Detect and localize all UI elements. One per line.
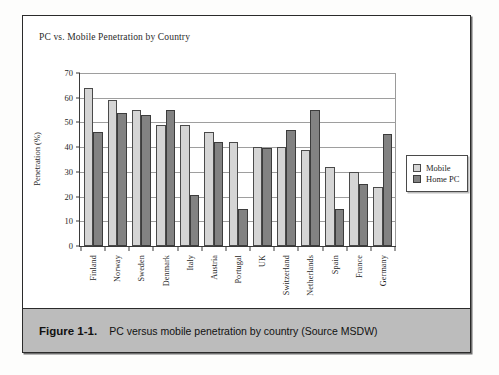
figure-caption: Figure 1-1. PC versus mobile penetration… — [23, 325, 378, 337]
bar-group: Switzerland — [274, 73, 298, 246]
bar-mobile — [253, 147, 263, 246]
legend-swatch-home-pc — [413, 175, 421, 183]
y-tick-label: 60 — [65, 93, 74, 103]
legend-item: Home PC — [413, 174, 459, 184]
bar-home-pc — [141, 115, 151, 246]
bar-mobile — [180, 125, 190, 246]
figure-frame: PC vs. Mobile Penetration by Country Pen… — [22, 15, 471, 353]
bar-home-pc — [335, 209, 345, 246]
bar-mobile — [229, 142, 239, 246]
bar-home-pc — [310, 110, 320, 246]
bar-home-pc — [238, 209, 248, 246]
figure-caption-bar: Figure 1-1. PC versus mobile penetration… — [23, 308, 470, 352]
bar-group: UK — [250, 73, 274, 246]
x-tick-mark — [81, 246, 82, 251]
bar-group: Finland — [81, 73, 105, 246]
bar-home-pc — [117, 113, 127, 246]
x-tick-label: Finland — [89, 255, 98, 281]
chart-area: PC vs. Mobile Penetration by Country Pen… — [23, 16, 470, 308]
bar-group: Sweden — [129, 73, 153, 246]
bar-group: Norway — [105, 73, 129, 246]
bar-mobile — [373, 187, 383, 246]
y-tick-label: 0 — [69, 241, 73, 251]
x-tick-mark — [129, 246, 130, 251]
x-tick-mark — [322, 246, 323, 251]
legend-item: Mobile — [413, 163, 459, 173]
bar-group: Germany — [371, 73, 395, 246]
bar-group: Italy — [178, 73, 202, 246]
chart-title: PC vs. Mobile Penetration by Country — [39, 32, 190, 42]
plot-area: 010203040506070 FinlandNorwaySwedenDenma… — [79, 73, 396, 247]
bar-group: Portugal — [226, 73, 250, 246]
x-tick-label: Spain — [330, 255, 339, 274]
y-tick-label: 10 — [65, 216, 74, 226]
x-tick-label: Switzerland — [282, 255, 291, 295]
x-tick-label: Sweden — [137, 255, 146, 282]
y-tick-label: 70 — [65, 68, 74, 78]
bar-mobile — [277, 147, 287, 246]
figure-caption-text: PC versus mobile penetration by country … — [109, 325, 377, 337]
legend-label: Home PC — [426, 174, 459, 184]
x-tick-mark — [298, 246, 299, 251]
x-tick-label: Netherlands — [306, 255, 315, 296]
y-tick-label: 50 — [65, 117, 74, 127]
x-tick-label: Portugal — [234, 255, 243, 284]
bar-home-pc — [214, 142, 224, 246]
x-tick-mark — [201, 246, 202, 251]
x-tick-label: Italy — [185, 255, 194, 271]
chart-legend: MobileHome PC — [406, 155, 468, 192]
bar-home-pc — [383, 134, 393, 246]
bar-group: Austria — [202, 73, 226, 246]
x-tick-mark — [177, 246, 178, 251]
bar-mobile — [156, 125, 166, 246]
bar-group: Denmark — [153, 73, 177, 246]
document-page: PC vs. Mobile Penetration by Country Pen… — [0, 0, 499, 375]
x-tick-mark — [395, 246, 396, 251]
bar-mobile — [204, 132, 214, 246]
x-tick-label: Germany — [378, 255, 387, 286]
y-axis-label: Penetration (%) — [32, 132, 42, 186]
x-tick-mark — [153, 246, 154, 251]
x-tick-label: Norway — [113, 255, 122, 282]
bar-home-pc — [286, 130, 296, 246]
x-tick-mark — [370, 246, 371, 251]
bar-home-pc — [166, 110, 176, 246]
bar-home-pc — [93, 132, 103, 246]
bar-group: Netherlands — [298, 73, 322, 246]
figure-caption-number: Figure 1-1. — [39, 325, 97, 337]
bar-mobile — [349, 172, 359, 246]
y-tick-label: 40 — [65, 142, 74, 152]
bar-home-pc — [262, 148, 272, 246]
bar-mobile — [325, 167, 335, 246]
bar-series-container: FinlandNorwaySwedenDenmarkItalyAustriaPo… — [80, 73, 396, 246]
x-tick-label: France — [354, 255, 363, 278]
x-tick-label: UK — [258, 255, 267, 267]
bar-mobile — [301, 150, 311, 246]
bar-home-pc — [359, 184, 369, 246]
x-tick-mark — [346, 246, 347, 251]
bar-home-pc — [190, 195, 200, 246]
legend-swatch-mobile — [413, 164, 421, 172]
x-tick-mark — [274, 246, 275, 251]
x-tick-mark — [105, 246, 106, 251]
x-tick-label: Denmark — [161, 255, 170, 286]
bar-group: France — [347, 73, 371, 246]
x-tick-mark — [250, 246, 251, 251]
x-tick-mark — [225, 246, 226, 251]
bar-mobile — [132, 110, 142, 246]
bar-mobile — [108, 100, 118, 246]
legend-label: Mobile — [426, 163, 451, 173]
bar-group: Spain — [323, 73, 347, 246]
y-tick-label: 30 — [65, 167, 74, 177]
y-tick-label: 20 — [65, 192, 74, 202]
x-tick-label: Austria — [209, 255, 218, 280]
bar-mobile — [84, 88, 94, 246]
